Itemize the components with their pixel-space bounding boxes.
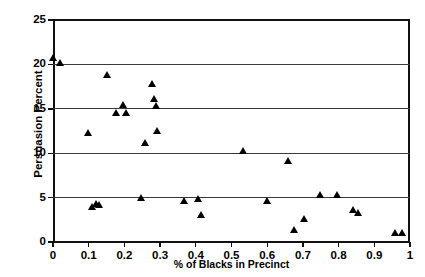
y-tick-label: 20 [33,57,46,69]
x-tick-mark-0.1 [88,242,89,247]
x-tick-label-0.4: 0.4 [188,249,204,261]
x-tick-mark-1 [409,242,410,247]
x-tick-label-0.9: 0.9 [366,249,382,261]
data-point [333,191,341,198]
y-tick-mark [48,197,53,198]
data-point [84,129,92,136]
x-tick-mark-0.6 [267,242,268,247]
x-tick-label-0.8: 0.8 [331,249,347,261]
y-tick-label: 15 [33,102,46,114]
x-tick-label-1: 1 [407,249,413,261]
data-point [141,139,149,146]
y-tick-mark [48,108,53,109]
data-point [148,80,156,87]
y-tick-mark [48,64,53,65]
gridline-y-10 [53,153,410,154]
y-tick-label: 10 [33,146,46,158]
x-tick-mark-0.9 [374,242,375,247]
data-point [103,71,111,78]
x-tick-label-0.6: 0.6 [259,249,275,261]
data-point [354,209,362,216]
plot-area: 0510152025 00.10.20.30.40.50.60.70.80.91 [53,20,410,242]
data-point [112,109,120,116]
data-point [300,215,308,222]
data-point [197,211,205,218]
data-point [239,147,247,154]
data-point [122,109,130,116]
y-axis-line [53,20,55,242]
y-tick-mark [48,19,53,20]
data-point [150,95,158,102]
x-tick-mark-0.3 [159,242,160,247]
gridline-y-20 [53,64,410,65]
x-tick-label-0.1: 0.1 [81,249,97,261]
data-point [284,157,292,164]
data-point [56,59,64,66]
x-tick-mark-0.2 [124,242,125,247]
scatter-chart-figure: Persuasion Percent % of Blacks in Precin… [0,0,425,277]
x-tick-mark-0.7 [302,242,303,247]
x-tick-label-0.5: 0.5 [224,249,240,261]
y-tick-label: 0 [40,235,46,247]
y-tick-label: 5 [40,191,46,203]
x-tick-label-0: 0 [50,249,56,261]
y-tick-label: 25 [33,13,46,25]
x-tick-mark-0.8 [338,242,339,247]
data-point [316,191,324,198]
data-point [180,197,188,204]
x-tick-mark-0.4 [195,242,196,247]
gridline-y-5 [53,197,410,198]
data-point [119,101,127,108]
data-point [263,197,271,204]
data-point [194,195,202,202]
data-point [290,226,298,233]
data-point [153,127,161,134]
x-tick-label-0.7: 0.7 [295,249,311,261]
y-tick-mark [48,153,53,154]
x-tick-label-0.2: 0.2 [116,249,132,261]
data-point [137,194,145,201]
data-point [95,201,103,208]
x-tick-mark-0.5 [231,242,232,247]
x-tick-label-0.3: 0.3 [152,249,168,261]
gridline-y-25 [53,19,410,20]
plot-right-border [408,20,410,242]
x-tick-mark-0 [52,242,53,247]
gridline-y-15 [53,108,410,109]
data-point [152,102,160,109]
data-point [398,229,406,236]
